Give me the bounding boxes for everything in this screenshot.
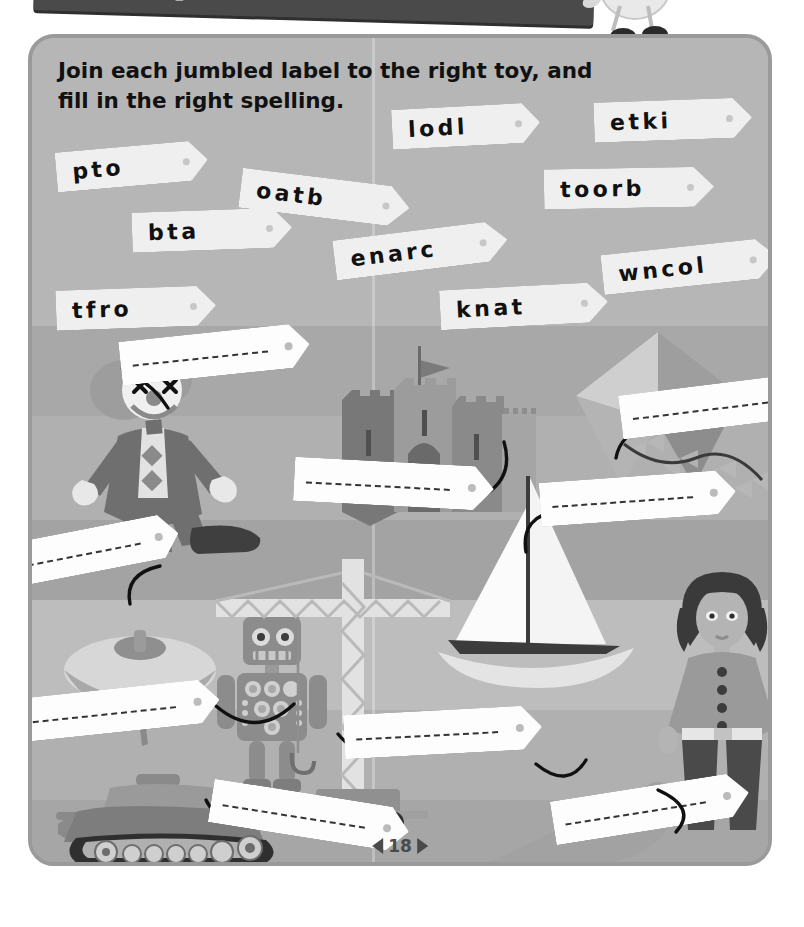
- writing-line: [633, 402, 768, 421]
- writing-line: [306, 482, 450, 492]
- tag-eyelet-icon: [182, 157, 190, 165]
- tag-eyelet-icon: [193, 697, 202, 706]
- jumbled-label-text: toorb: [544, 175, 645, 202]
- jumbled-label-text: knat: [439, 293, 526, 322]
- page-number-control[interactable]: 18: [372, 836, 428, 856]
- next-page-icon[interactable]: [417, 838, 428, 854]
- tag-eyelet-icon: [749, 256, 757, 264]
- prev-page-icon[interactable]: [372, 838, 383, 854]
- jumbled-label-text: pto: [55, 154, 125, 185]
- writing-line: [33, 706, 176, 723]
- tag-eyelet-icon: [710, 488, 719, 497]
- tag-eyelet-icon: [479, 238, 487, 246]
- mascot-body: [598, 0, 672, 20]
- writing-line: [552, 496, 693, 508]
- jumbled-label-tag[interactable]: lodl: [391, 102, 541, 150]
- tag-eyelet-icon: [726, 114, 733, 121]
- tag-eyelet-icon: [154, 532, 163, 541]
- jumbled-label-tag[interactable]: toorb: [544, 167, 715, 210]
- jumbled-label-text: oatb: [239, 175, 328, 210]
- jumbled-label-text: tfro: [56, 296, 133, 324]
- page-number-label: 18: [388, 836, 412, 856]
- jumbled-label-text: enarc: [333, 236, 438, 273]
- writing-line: [222, 804, 365, 829]
- jumbled-label-text: lodl: [391, 113, 468, 142]
- tag-eyelet-icon: [382, 824, 391, 833]
- jumbled-label-tag[interactable]: etki: [593, 97, 752, 142]
- writing-line: [133, 351, 269, 367]
- string-robot: [212, 698, 302, 746]
- instruction-text: Join each jumbled label to the right toy…: [58, 56, 618, 116]
- jumbled-label-text: wncol: [601, 252, 708, 288]
- mascot-hand: [580, 0, 604, 11]
- tag-eyelet-icon: [190, 302, 197, 309]
- jumbled-label-text: etki: [594, 108, 672, 136]
- string-doll: [648, 782, 718, 836]
- string-top: [108, 562, 174, 614]
- jumbled-label-text: bta: [132, 218, 200, 245]
- tag-eyelet-icon: [515, 120, 522, 127]
- jumbled-label-tag[interactable]: tfro: [55, 285, 216, 331]
- jumbled-label-tag[interactable]: bta: [131, 207, 292, 253]
- writing-line: [356, 731, 498, 740]
- tag-eyelet-icon: [382, 202, 390, 210]
- tag-eyelet-icon: [468, 484, 476, 492]
- tag-eyelet-icon: [581, 299, 588, 306]
- tag-eyelet-icon: [723, 791, 732, 800]
- writing-line: [28, 543, 141, 569]
- workbook-page: IN TH c Join each jumbled label to the r…: [0, 0, 804, 927]
- page-frame: Join each jumbled label to the right toy…: [28, 34, 772, 866]
- tag-eyelet-icon: [284, 342, 293, 351]
- tag-eyelet-icon: [516, 724, 524, 732]
- mascot-letter: c: [614, 0, 646, 3]
- tag-eyelet-icon: [687, 183, 694, 190]
- tag-eyelet-icon: [266, 224, 273, 231]
